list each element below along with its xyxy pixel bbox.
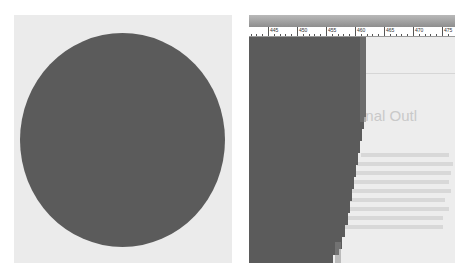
ruler-minor-tick: [367, 34, 368, 36]
ruler-label: 450: [299, 27, 307, 33]
ruler-major-tick: [326, 27, 327, 36]
horizontal-ruler[interactable]: 445 450 455 460 465 470 475: [249, 27, 455, 37]
ruler-minor-tick: [396, 34, 397, 36]
ruler-minor-tick: [309, 34, 310, 36]
left-canvas-panel: [14, 15, 232, 263]
ruler-minor-tick: [401, 34, 402, 36]
ruler-minor-tick: [332, 34, 333, 36]
zoomed-circle-edge[interactable]: [249, 37, 455, 263]
ruler-minor-tick: [251, 34, 252, 36]
ruler-minor-tick: [314, 34, 315, 36]
ruler-minor-tick: [349, 34, 350, 36]
ruler-minor-tick: [280, 34, 281, 36]
ruler-minor-tick: [338, 34, 339, 36]
ruler-major-tick: [442, 27, 443, 36]
ruler-minor-tick: [256, 34, 257, 36]
ruler-minor-tick: [378, 34, 379, 36]
ruler-minor-tick: [419, 34, 420, 36]
ruler-minor-tick: [320, 34, 321, 36]
ruler-major-tick: [413, 27, 414, 36]
ruler-minor-tick: [343, 34, 344, 36]
ruler-minor-tick: [303, 34, 304, 36]
ruler-major-tick: [384, 27, 385, 36]
ruler-minor-tick: [390, 34, 391, 36]
circle-shape[interactable]: [20, 33, 225, 247]
ruler-minor-tick: [430, 34, 431, 36]
ruler-minor-tick: [274, 34, 275, 36]
ruler-major-tick: [268, 27, 269, 36]
ruler-minor-tick: [372, 34, 373, 36]
ruler-label: 460: [357, 27, 365, 33]
ruler-major-tick: [297, 27, 298, 36]
ruler-label: 470: [415, 27, 423, 33]
ruler-label: 455: [328, 27, 336, 33]
ruler-minor-tick: [262, 34, 263, 36]
right-zoomed-panel: 445 450 455 460 465 470 475: [249, 15, 455, 263]
ruler-minor-tick: [448, 34, 449, 36]
ruler-minor-tick: [291, 34, 292, 36]
ruler-minor-tick: [436, 34, 437, 36]
ruler-minor-tick: [285, 34, 286, 36]
ruler-label: 475: [444, 27, 452, 33]
ruler-minor-tick: [425, 34, 426, 36]
ruler-minor-tick: [361, 34, 362, 36]
ruler-major-tick: [355, 27, 356, 36]
ruler-minor-tick: [407, 34, 408, 36]
ruler-header: [249, 15, 455, 27]
ruler-label: 445: [270, 27, 278, 33]
ruler-label: 465: [386, 27, 394, 33]
